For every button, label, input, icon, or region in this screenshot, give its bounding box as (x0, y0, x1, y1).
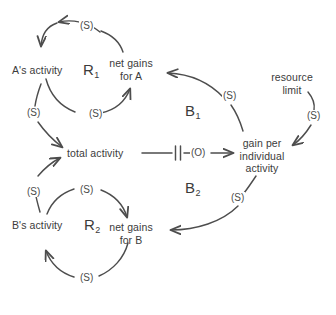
node-net-gains-a-line1: net gains (100, 57, 162, 70)
loop-id-r1: R1 (83, 62, 99, 80)
link-Aactivity-to-totalactivity-lower (38, 122, 62, 147)
node-net-gains-b: net gains for B (100, 221, 162, 246)
node-total-activity-label: total activity (67, 147, 123, 159)
loop-id-r1-subscript: 1 (94, 70, 99, 80)
link-Aactivity-to-netgainsA-left (46, 79, 75, 112)
loop-id-b2: B2 (185, 180, 200, 198)
link-Bactivity-to-netgainsB-left (47, 189, 74, 214)
loop-id-r2-subscript: 2 (95, 225, 100, 235)
loop-id-b2-letter: B (185, 179, 195, 196)
node-total-activity: total activity (67, 147, 147, 160)
node-b-activity: B's activity (12, 219, 82, 232)
node-net-gains-b-line2: for B (100, 234, 162, 247)
link-Bactivity-to-netgainsB-right (101, 190, 127, 217)
link-Aactivity-to-totalactivity-upper (35, 84, 41, 106)
node-gain-per-individual-activity: gain per individual activity (234, 137, 290, 175)
link-gain-to-netgainsB-upper (244, 176, 256, 193)
node-resource-limit: resource limit (264, 71, 320, 96)
polarity-label-Aactivity-to-netgainsA: (S) (88, 108, 103, 119)
link-netgainsB-to-Bactivity-left (46, 251, 74, 277)
node-net-gains-a: net gains for A (100, 57, 162, 82)
link-gain-to-netgainsA-lower (231, 105, 243, 131)
node-resource-limit-line2: limit (264, 84, 320, 97)
loop-id-b1-subscript: 1 (196, 111, 201, 121)
node-a-activity-label: A's activity (12, 64, 62, 76)
node-gain-line3: activity (234, 162, 290, 175)
link-gain-to-netgainsB-lower (171, 206, 238, 230)
node-b-activity-label: B's activity (12, 219, 62, 231)
node-a-activity: A's activity (12, 64, 82, 77)
loop-id-b2-subscript: 2 (196, 188, 201, 198)
node-net-gains-a-line2: for A (100, 70, 162, 83)
node-gain-line1: gain per (234, 137, 290, 150)
link-Bactivity-to-totalactivity-upper (38, 158, 60, 176)
polarity-label-Aactivity-to-totalactivity: (S) (26, 107, 41, 118)
link-gain-to-netgainsA-upper (168, 73, 224, 98)
polarity-label-Bactivity-to-totalactivity: (S) (26, 186, 41, 197)
polarity-label-gain-to-netgainsA: (S) (222, 90, 237, 101)
link-resourcelimit-to-gain-lower (293, 125, 311, 145)
node-gain-line2: individual (234, 150, 290, 163)
node-resource-limit-line1: resource (264, 71, 320, 84)
polarity-label-netgainsB-to-Bactivity: (S) (79, 272, 94, 283)
polarity-label-resourcelimit-to-gain: (S) (306, 110, 321, 121)
polarity-label-gain-to-netgainsB: (S) (230, 192, 245, 203)
causal-loop-diagram: A's activity net gains for A total activ… (0, 0, 336, 315)
node-net-gains-b-line1: net gains (100, 221, 162, 234)
polarity-label-totalactivity-to-gain: (O) (190, 147, 206, 158)
link-netgainsA-to-Aactivity-right (101, 31, 123, 52)
loop-id-b1-letter: B (185, 102, 195, 119)
loop-id-r2-letter: R (84, 216, 95, 233)
loop-id-r2: R2 (84, 217, 100, 235)
link-Aactivity-to-netgainsA-right (101, 89, 130, 113)
link-netgainsB-to-Bactivity-right (99, 243, 128, 276)
polarity-label-Bactivity-to-netgainsB: (S) (79, 184, 94, 195)
loop-id-b1: B1 (185, 103, 200, 121)
link-arrow-down-to-Aactivity (41, 23, 57, 46)
polarity-label-netgainsA-to-Aactivity: (S) (79, 20, 94, 31)
loop-id-r1-letter: R (83, 61, 94, 78)
